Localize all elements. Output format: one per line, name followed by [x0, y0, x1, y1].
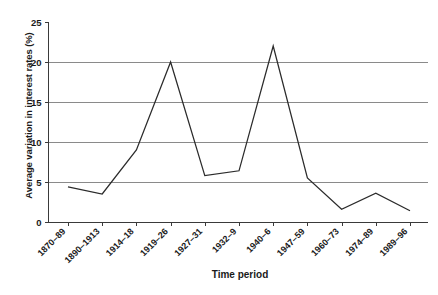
x-tick-label: 1927–31 — [172, 226, 204, 258]
gridlines — [49, 63, 429, 183]
x-tick-label: 1940–6 — [244, 226, 272, 254]
x-tick-label: 1870–89 — [36, 226, 68, 258]
x-tick-label: 1932–9 — [210, 226, 238, 254]
y-tick-label: 15 — [31, 97, 42, 108]
y-tick-label: 5 — [36, 177, 42, 188]
x-tick-label: 1914–18 — [104, 226, 136, 258]
y-tick-label: 25 — [31, 17, 42, 28]
x-axis-ticks: 1870–891890–19131914–181919–261927–31193… — [36, 222, 411, 265]
chart-figure: Average variation in interest rates (%) … — [0, 0, 438, 295]
x-tick-label: 1890–1913 — [63, 226, 102, 265]
x-axis-title: Time period — [150, 269, 330, 280]
x-tick-label: 1919–26 — [138, 226, 170, 258]
x-tick-label: 1960–73 — [309, 226, 341, 258]
data-series-line — [68, 46, 410, 211]
y-axis-ticks: 0510152025 — [31, 17, 49, 228]
y-tick-label: 0 — [36, 217, 41, 228]
x-tick-label: 1974–89 — [343, 226, 375, 258]
x-tick-label: 1947–59 — [275, 226, 307, 258]
y-tick-label: 10 — [31, 137, 42, 148]
x-tick-label: 1989–96 — [378, 226, 410, 258]
y-tick-label: 20 — [31, 57, 42, 68]
line-chart-plot: 0510152025 1870–891890–19131914–181919–2… — [0, 0, 438, 295]
